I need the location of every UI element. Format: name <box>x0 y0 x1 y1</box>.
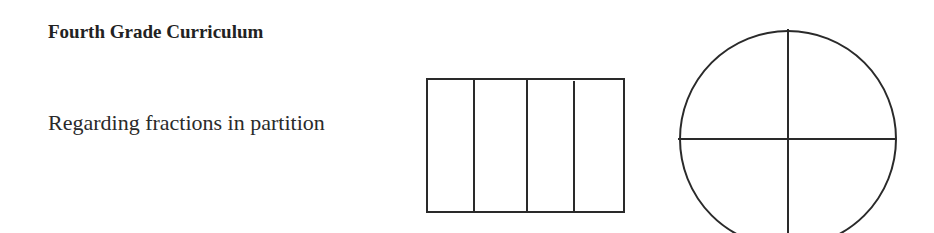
rectangle-fourths-figure <box>427 79 624 213</box>
rectangle-outline <box>427 79 624 212</box>
fraction-figures <box>0 0 934 233</box>
circle-fourths-figure <box>678 29 896 233</box>
